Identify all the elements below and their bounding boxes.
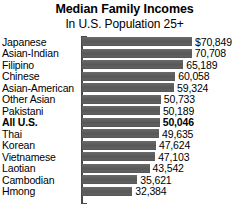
category-label: Korean [2, 140, 35, 151]
category-label: Other Asian [2, 94, 55, 105]
bar-row: Hmong32,384 [0, 186, 249, 198]
value-label: 50,046 [160, 117, 194, 128]
bar [82, 175, 137, 184]
category-label: Filipino [2, 59, 34, 70]
chart-subtitle: In U.S. Population 25+ [0, 17, 249, 32]
bar [82, 60, 183, 69]
value-label: 59,324 [174, 82, 208, 93]
chart-plot-area: Japanese$70,849Asian-Indian70,708Filipin… [0, 36, 249, 204]
chart-figure: Median Family Incomes In U.S. Population… [0, 0, 249, 204]
value-label: 49,635 [159, 128, 193, 139]
category-label: All U.S. [2, 117, 38, 128]
page-title: Median Family Incomes [0, 2, 249, 17]
value-label: 43,542 [150, 163, 184, 174]
chart-title-block: Median Family Incomes In U.S. Population… [0, 0, 249, 32]
value-label: 50,733 [161, 94, 195, 105]
bar-track: 60,058 [82, 71, 249, 83]
bar [82, 95, 161, 104]
bar-row: Thai49,635 [0, 128, 249, 140]
bar [82, 141, 156, 150]
category-label: Cambodian [2, 174, 54, 185]
category-label: Asian-American [2, 82, 74, 93]
value-label: $70,849 [192, 36, 232, 47]
bar-track: 65,189 [82, 59, 249, 71]
axis-cap-bottom [81, 203, 87, 205]
bar [82, 83, 174, 92]
category-label: Thai [2, 128, 22, 139]
bar [82, 164, 150, 173]
category-label: Laotian [2, 163, 35, 174]
category-label: Vietnamese [2, 151, 56, 162]
value-label: 65,189 [183, 59, 217, 70]
bar-row: Vietnamese47,103 [0, 151, 249, 163]
bar [82, 187, 132, 196]
bar-row: Cambodian35,621 [0, 174, 249, 186]
category-label: Asian-Indian [2, 48, 59, 59]
value-label: 50,189 [160, 105, 194, 116]
category-label: Hmong [2, 186, 35, 197]
value-label: 35,621 [137, 174, 171, 185]
bar-track: 32,384 [82, 186, 249, 198]
bar-rows: Japanese$70,849Asian-Indian70,708Filipin… [0, 36, 249, 197]
bar [82, 118, 160, 127]
value-label: 32,384 [132, 186, 166, 197]
bar-track: 70,708 [82, 48, 249, 60]
category-label: Chinese [2, 71, 39, 82]
value-label: 60,058 [175, 71, 209, 82]
value-label: 47,103 [155, 151, 189, 162]
bar [82, 49, 192, 58]
value-label: 47,624 [156, 140, 190, 151]
category-label: Pakistani [2, 105, 43, 116]
bar [82, 152, 155, 161]
bar [82, 72, 175, 81]
bar [82, 106, 160, 115]
bar-row: All U.S.50,046 [0, 117, 249, 129]
value-label: 70,708 [192, 48, 226, 59]
bar [82, 37, 192, 46]
bar [82, 129, 159, 138]
category-label: Japanese [2, 36, 46, 47]
